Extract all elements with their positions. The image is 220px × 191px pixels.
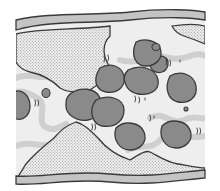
blob-2 [96,65,125,92]
blob-3 [92,97,124,126]
small-blob-3 [184,107,188,111]
channel-diagram [0,0,220,191]
blob-9 [115,123,145,150]
small-blob-1 [42,89,50,98]
blob-7 [167,73,196,102]
diagram-canvas [0,0,220,191]
small-blob-2 [152,44,160,51]
blob-8 [161,121,191,148]
